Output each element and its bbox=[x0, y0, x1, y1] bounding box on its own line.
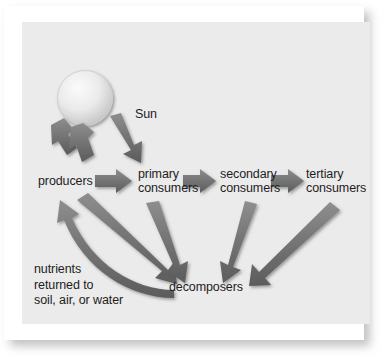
label-secondary-consumers: secondary consumers bbox=[220, 167, 280, 195]
figure-panel: Sun producers primary consumers secondar… bbox=[22, 22, 370, 324]
sun-icon bbox=[58, 71, 113, 126]
label-tertiary-line2: consumers bbox=[306, 181, 366, 195]
label-nutrients-line2: returned to bbox=[34, 278, 123, 294]
arrow-producers-to-primary bbox=[95, 169, 132, 193]
label-producers: producers bbox=[38, 174, 93, 188]
label-primary-line2: consumers bbox=[138, 181, 198, 195]
screenshot-root: Sun producers primary consumers secondar… bbox=[0, 0, 389, 358]
label-decomposers: decomposers bbox=[169, 280, 243, 294]
label-nutrients-line1: nutrients bbox=[34, 262, 81, 276]
label-primary-consumers: primary consumers bbox=[138, 167, 198, 195]
arrow-sun-to-producers-center bbox=[69, 123, 94, 162]
label-secondary-line1: secondary bbox=[220, 167, 277, 181]
label-primary-line1: primary bbox=[138, 167, 179, 181]
label-sun: Sun bbox=[135, 107, 157, 121]
label-tertiary-consumers: tertiary consumers bbox=[306, 167, 366, 195]
label-nutrients-returned: nutrients returned to soil, air, or wate… bbox=[34, 262, 123, 309]
label-tertiary-line1: tertiary bbox=[306, 167, 343, 181]
label-secondary-line2: consumers bbox=[220, 181, 280, 195]
label-nutrients-line3: soil, air, or water bbox=[34, 293, 123, 309]
arrow-tertiary-to-decomposers bbox=[249, 202, 340, 286]
